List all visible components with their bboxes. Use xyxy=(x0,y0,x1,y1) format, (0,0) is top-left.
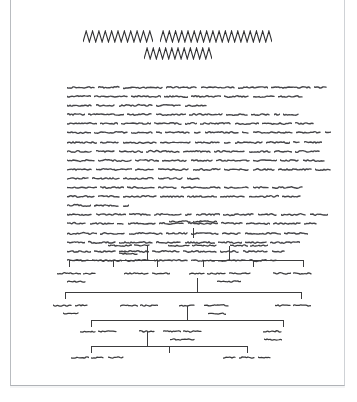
greeked-word xyxy=(274,111,280,118)
greeked-word xyxy=(108,354,124,361)
greeked-word xyxy=(57,270,81,277)
greeked-word xyxy=(253,166,275,173)
greeked-word xyxy=(67,93,91,100)
tree-node-label-row xyxy=(56,270,99,278)
title-line xyxy=(11,30,344,43)
greeked-word xyxy=(266,139,290,146)
greeked-word xyxy=(98,84,120,91)
greeked-word xyxy=(96,148,116,155)
greeked-word xyxy=(91,354,105,361)
greeked-word xyxy=(67,148,93,155)
tree-node-label-row xyxy=(79,328,120,336)
tree-node-label[interactable] xyxy=(56,270,99,285)
tree-node-label-row xyxy=(69,354,125,362)
tree-node-label[interactable] xyxy=(69,354,125,362)
greeked-word xyxy=(146,148,180,155)
greeked-word xyxy=(193,166,221,173)
tree-node-label[interactable] xyxy=(262,328,285,343)
greeked-word xyxy=(304,139,322,146)
greeked-word xyxy=(168,242,190,249)
greeked-word xyxy=(220,193,246,200)
greeked-word xyxy=(166,84,198,91)
greeked-word xyxy=(163,328,181,335)
greeked-word xyxy=(295,148,321,155)
greeked-word xyxy=(98,193,120,200)
tree-node-label[interactable] xyxy=(52,302,91,317)
greeked-word xyxy=(224,139,232,146)
tree-node-label[interactable] xyxy=(206,270,253,285)
greeked-word xyxy=(216,157,250,164)
greeked-word xyxy=(162,157,188,164)
greeked-word xyxy=(80,328,96,335)
greeked-word xyxy=(226,111,248,118)
greeked-word xyxy=(224,184,250,191)
text-line xyxy=(67,175,315,184)
greeked-word xyxy=(119,250,139,257)
hierarchy-tree-diagram xyxy=(21,212,356,362)
tree-node-label-row xyxy=(262,328,285,336)
greeked-word xyxy=(217,278,241,285)
tree-node-label-row xyxy=(123,270,172,278)
greeked-word xyxy=(100,120,118,127)
greeked-word xyxy=(283,111,299,118)
greeked-word xyxy=(123,139,157,146)
greeked-word xyxy=(67,166,93,173)
greeked-word xyxy=(156,102,182,109)
title-line xyxy=(11,47,344,60)
greeked-word xyxy=(96,166,132,173)
greeked-word xyxy=(191,93,221,100)
text-line xyxy=(67,193,315,202)
greeked-word xyxy=(67,120,97,127)
greeked-word xyxy=(140,302,158,309)
tree-node-label-row xyxy=(107,250,152,258)
tree-node-label-row xyxy=(167,242,220,250)
tree-node-label[interactable] xyxy=(107,242,152,257)
greeked-word xyxy=(67,184,97,191)
tree-node-label-row xyxy=(168,218,219,226)
greeked-word xyxy=(242,129,250,136)
greeked-word xyxy=(195,139,221,146)
tree-node-label[interactable] xyxy=(119,302,160,310)
greeked-word xyxy=(123,202,129,209)
document-title xyxy=(11,30,344,64)
tree-node-label[interactable] xyxy=(229,242,270,250)
tree-node-label[interactable] xyxy=(178,302,197,310)
greeked-word xyxy=(208,310,226,317)
tree-node-label[interactable] xyxy=(221,354,273,362)
greeked-word xyxy=(272,184,304,191)
text-line xyxy=(67,184,315,193)
tree-node-label-row xyxy=(52,302,91,310)
title-zigzag-word xyxy=(144,47,212,60)
tree-node-label[interactable] xyxy=(79,328,120,336)
greeked-word xyxy=(185,102,207,109)
greeked-word xyxy=(158,166,190,173)
greeked-word xyxy=(200,120,232,127)
text-line xyxy=(67,157,315,166)
greeked-word xyxy=(239,354,255,361)
greeked-word xyxy=(123,175,155,182)
tree-node-label-row xyxy=(203,310,232,318)
tree-node-label-row xyxy=(52,310,91,318)
tree-node-label[interactable] xyxy=(203,302,232,317)
greeked-word xyxy=(263,328,283,335)
tree-node-label[interactable] xyxy=(188,270,207,278)
greeked-word xyxy=(100,139,120,146)
text-line xyxy=(67,166,315,175)
tree-node-label[interactable] xyxy=(274,302,313,310)
document-screenshot xyxy=(0,0,357,402)
greeked-word xyxy=(189,111,223,118)
tree-node-label-row xyxy=(178,302,197,310)
tree-node-label[interactable] xyxy=(123,270,172,278)
title-zigzag-word xyxy=(160,30,272,43)
tree-node-label[interactable] xyxy=(168,218,219,226)
tree-node-label-row xyxy=(206,278,253,286)
tree-node-label-row xyxy=(206,270,253,278)
greeked-word xyxy=(193,218,217,225)
greeked-word xyxy=(165,129,191,136)
tree-node-label[interactable] xyxy=(162,328,205,343)
greeked-word xyxy=(131,129,153,136)
tree-node-label[interactable] xyxy=(138,328,157,336)
greeked-word xyxy=(194,129,202,136)
tree-node-label[interactable] xyxy=(272,270,315,278)
tree-node-label[interactable] xyxy=(167,242,220,250)
